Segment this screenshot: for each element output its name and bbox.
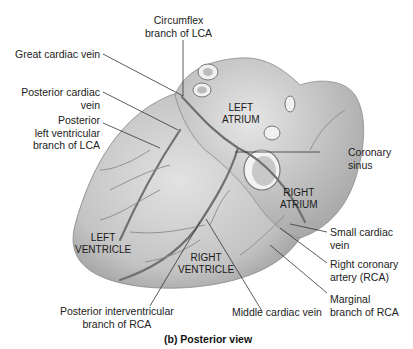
label-great-cardiac-vein: Great cardiac vein <box>15 48 100 61</box>
label-marginal-branch: Marginal branch of RCA <box>330 293 399 318</box>
label-posterior-lv-branch: Posterior left ventricular branch of LCA <box>10 114 100 152</box>
label-line: vein <box>10 99 100 112</box>
label-line: ATRIUM <box>280 199 318 211</box>
label-line: LEFT <box>75 232 131 244</box>
heart-diagram: LEFT ATRIUM RIGHT ATRIUM LEFT VENTRICLE … <box>0 0 413 349</box>
label-line: RIGHT <box>178 252 234 264</box>
label-line: Posterior <box>10 114 100 127</box>
label-line: vein <box>330 239 393 252</box>
label-small-cardiac-vein: Small cardiac vein <box>330 226 393 251</box>
label-right-coronary-artery: Right coronary artery (RCA) <box>330 258 398 283</box>
label-line: Coronary <box>348 146 391 159</box>
label-line: RIGHT <box>280 187 318 199</box>
label-posterior-interventricular: Posterior interventricular branch of RCA <box>60 305 174 330</box>
right-atrium-label: RIGHT ATRIUM <box>280 187 318 211</box>
label-middle-cardiac-vein: Middle cardiac vein <box>232 306 322 319</box>
label-coronary-sinus: Coronary sinus <box>348 146 391 171</box>
label-line: sinus <box>348 159 391 172</box>
label-line: Middle cardiac vein <box>232 306 322 319</box>
label-line: left ventricular <box>10 127 100 140</box>
left-atrium-label: LEFT ATRIUM <box>222 102 260 126</box>
label-line: VENTRICLE <box>178 264 234 276</box>
label-line: Marginal <box>330 293 399 306</box>
label-line: branch of LCA <box>145 27 212 40</box>
label-line: Small cardiac <box>330 226 393 239</box>
figure-caption: (b) Posterior view <box>164 333 252 345</box>
label-line: Circumflex <box>145 14 212 27</box>
label-line: Posterior cardiac <box>10 86 100 99</box>
label-posterior-cardiac-vein: Posterior cardiac vein <box>10 86 100 111</box>
label-line: ATRIUM <box>222 114 260 126</box>
left-ventricle-label: LEFT VENTRICLE <box>75 232 131 256</box>
label-line: artery (RCA) <box>330 271 398 284</box>
right-ventricle-label: RIGHT VENTRICLE <box>178 252 234 276</box>
label-line: Posterior interventricular <box>60 305 174 318</box>
label-line: LEFT <box>222 102 260 114</box>
label-line: Right coronary <box>330 258 398 271</box>
label-circumflex-branch: Circumflex branch of LCA <box>145 14 212 39</box>
label-line: branch of RCA <box>60 318 174 331</box>
label-line: VENTRICLE <box>75 244 131 256</box>
label-line: Great cardiac vein <box>15 48 100 61</box>
label-line: branch of LCA <box>10 139 100 152</box>
label-line: branch of RCA <box>330 306 399 319</box>
